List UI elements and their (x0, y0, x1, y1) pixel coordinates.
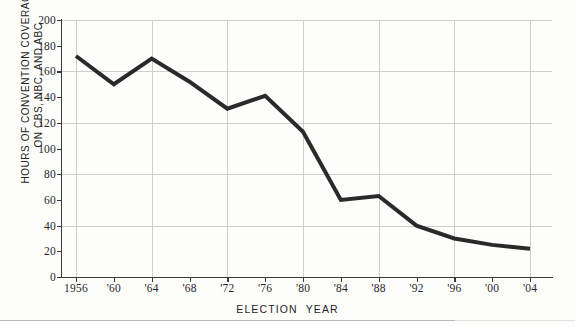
x-tick-label-64: '64 (145, 282, 159, 294)
x-tick-label-80: '80 (296, 282, 310, 294)
x-tick-label-96: '96 (447, 282, 461, 294)
y-axis-tick-labels: 020406080100120140160180200 (26, 20, 56, 277)
x-axis-title-word1: ELECTION (234, 303, 299, 315)
y-tick-label-180: 180 (30, 40, 56, 52)
y-tick-label-60: 60 (30, 194, 56, 206)
x-tick-label-60: '60 (107, 282, 121, 294)
coverage-hours-line (76, 56, 530, 249)
chart-page: HOURS OF CONVENTION COVERAGE ON CBS, NBC… (0, 0, 575, 327)
x-axis-title-word2: YEAR (304, 303, 341, 315)
y-tick-label-40: 40 (30, 220, 56, 232)
y-tick-label-120: 120 (30, 117, 56, 129)
scan-artifact-text (4, 0, 304, 8)
x-tick-label-68: '68 (182, 282, 196, 294)
y-tick-label-160: 160 (30, 65, 56, 77)
x-tick-label-92: '92 (409, 282, 423, 294)
y-tick-label-140: 140 (30, 91, 56, 103)
footer-divider (0, 320, 455, 321)
y-tick-label-100: 100 (30, 143, 56, 155)
x-axis-tick-labels: 1956'60'64'68'72'76'80'84'88'92'96'00'04 (61, 282, 552, 298)
footer-divider-faded (455, 320, 575, 321)
y-tick-0 (57, 277, 62, 278)
x-tick-label-72: '72 (220, 282, 234, 294)
y-tick-label-200: 200 (30, 14, 56, 26)
y-tick-label-80: 80 (30, 168, 56, 180)
y-tick-label-20: 20 (30, 245, 56, 257)
x-tick-label-84: '84 (334, 282, 348, 294)
data-line-series (61, 20, 552, 277)
plot-area (61, 20, 552, 277)
x-tick-label-76: '76 (258, 282, 272, 294)
x-tick-label-88: '88 (372, 282, 386, 294)
x-tick-label-00: '00 (485, 282, 499, 294)
x-tick-label-1956: 1956 (64, 282, 88, 294)
x-tick-label-04: '04 (523, 282, 537, 294)
y-tick-label-0: 0 (30, 271, 56, 283)
x-axis-title: ELECTION YEAR (0, 303, 575, 315)
